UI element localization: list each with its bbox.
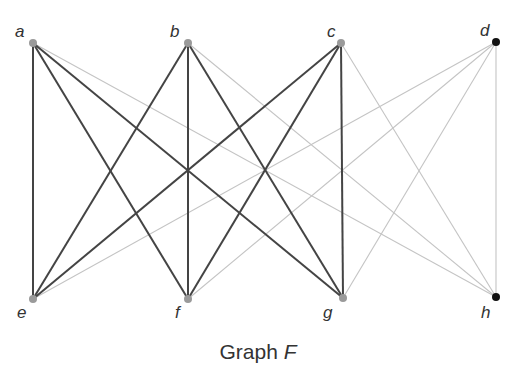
edge-c-g xyxy=(341,43,343,298)
node-label-a: a xyxy=(15,22,24,41)
node-d xyxy=(492,38,500,46)
node-c xyxy=(337,39,345,47)
node-f xyxy=(184,295,192,303)
node-e xyxy=(29,295,37,303)
node-label-h: h xyxy=(481,303,490,322)
node-label-g: g xyxy=(323,303,333,322)
node-g xyxy=(339,294,347,302)
node-label-d: d xyxy=(480,21,490,40)
graph-title: Graph F xyxy=(219,340,297,363)
node-b xyxy=(184,39,192,47)
node-a xyxy=(29,39,37,47)
node-h xyxy=(492,293,500,301)
node-label-f: f xyxy=(175,303,182,322)
dark-edges xyxy=(33,43,343,299)
node-label-e: e xyxy=(17,303,26,322)
graph-title-prefix: Graph xyxy=(219,340,283,363)
node-label-c: c xyxy=(327,22,336,41)
graph-title-variable: F xyxy=(284,340,298,363)
graph-diagram: abcdefgh Graph F xyxy=(0,0,516,367)
node-label-b: b xyxy=(170,22,179,41)
